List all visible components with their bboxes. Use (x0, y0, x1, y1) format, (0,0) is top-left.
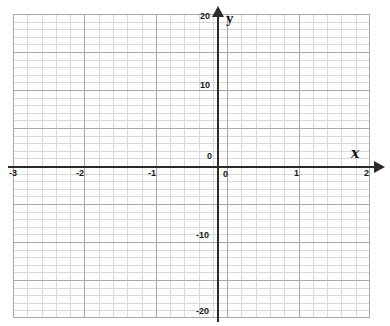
y-axis-name-label: y (226, 11, 234, 26)
y-axis-line (217, 16, 219, 322)
y-tick-label-0: 0 (207, 152, 212, 161)
x-axis-name-label: x (351, 146, 359, 160)
graph-canvas: y x -3 -2 -1 0 1 2 20 10 0 -10 -20 (0, 0, 390, 326)
x-tick-label-neg1: -1 (148, 169, 156, 178)
y-tick-label-10: 10 (200, 81, 210, 90)
y-tick-label-neg20: -20 (196, 307, 209, 316)
x-tick-label-0: 0 (223, 170, 228, 179)
x-tick-label-neg2: -2 (76, 169, 84, 178)
x-axis-line (8, 166, 377, 168)
x-tick-label-neg3: -3 (9, 169, 17, 178)
x-axis-arrowhead-icon (374, 161, 385, 173)
y-axis-arrowhead-icon (212, 6, 224, 17)
x-tick-label-1: 1 (294, 169, 299, 178)
y-tick-label-20: 20 (200, 12, 210, 21)
y-tick-label-neg10: -10 (196, 231, 209, 240)
x-tick-label-2: 2 (364, 169, 369, 178)
